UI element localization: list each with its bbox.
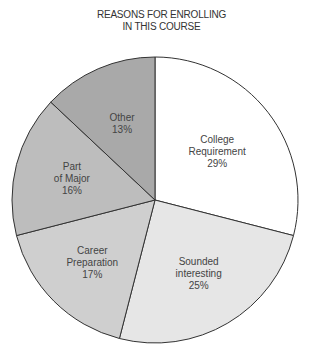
pie-slices	[12, 57, 298, 343]
pie-chart: CollegeRequirement29%Soundedinteresting2…	[0, 0, 323, 363]
slice-label-other: Other13%	[110, 112, 136, 135]
